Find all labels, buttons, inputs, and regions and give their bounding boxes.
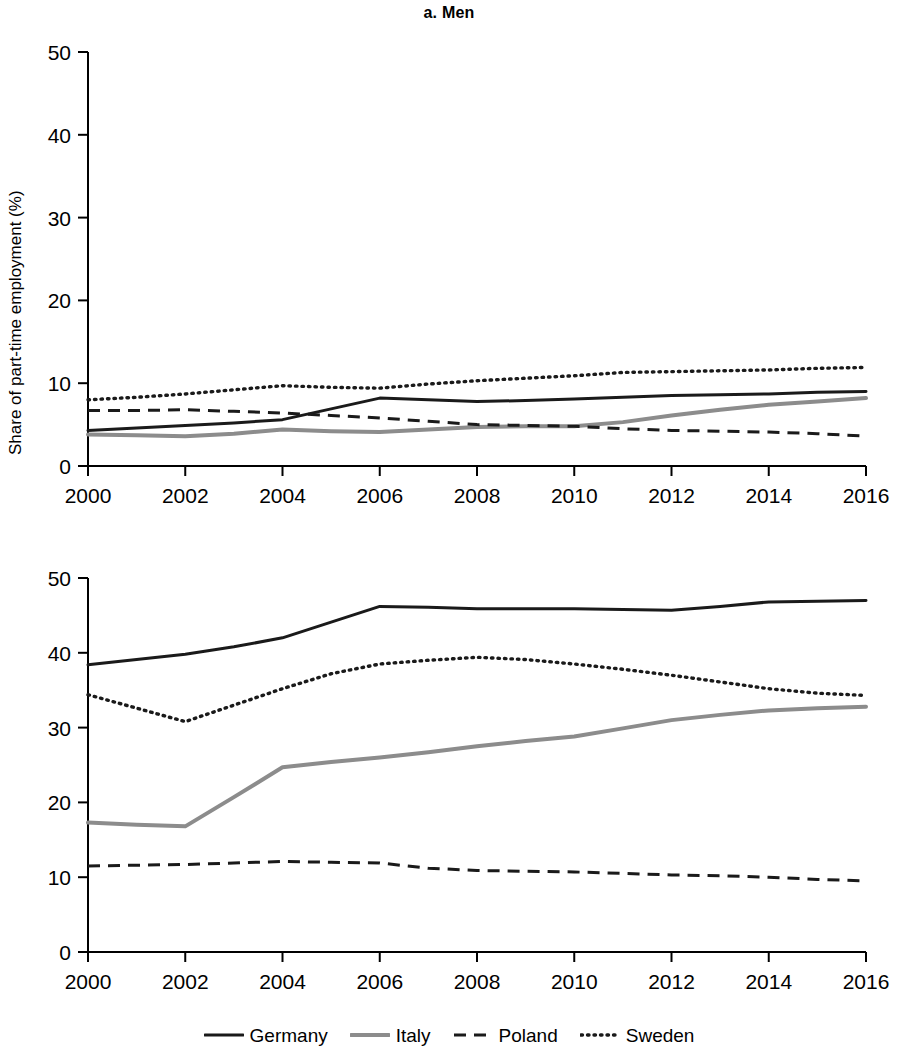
y-tick-label: 50 — [48, 567, 71, 590]
y-tick-label: 30 — [48, 207, 71, 230]
x-tick-label: 2016 — [843, 484, 890, 507]
y-axis-ticks: 01020304050 — [48, 567, 88, 964]
y-tick-label: 20 — [48, 289, 71, 312]
y-tick-label: 10 — [48, 372, 71, 395]
chart-panel-men: a. Men Share of part-time employment (%)… — [0, 0, 898, 525]
y-axis-ticks: 01020304050 — [48, 41, 88, 478]
solid-line-icon — [204, 1028, 244, 1042]
y-tick-label: 40 — [48, 642, 71, 665]
legend-item-germany: Germany — [204, 1026, 328, 1045]
series-line-italy — [88, 707, 866, 827]
chart-panel-women: b. Women Share of part-time employment (… — [0, 530, 898, 1015]
legend-label: Sweden — [626, 1026, 695, 1045]
x-tick-label: 2014 — [745, 970, 792, 993]
axes — [88, 52, 866, 466]
solid-line-icon — [350, 1028, 390, 1042]
x-axis-ticks: 200020022004200620082010201220142016 — [65, 952, 890, 993]
x-tick-label: 2016 — [843, 970, 890, 993]
y-tick-label: 30 — [48, 717, 71, 740]
legend-item-poland: Poland — [453, 1026, 558, 1045]
y-tick-label: 20 — [48, 791, 71, 814]
x-tick-label: 2000 — [65, 484, 112, 507]
x-tick-label: 2004 — [259, 970, 306, 993]
legend-item-italy: Italy — [350, 1026, 431, 1045]
x-tick-label: 2002 — [162, 484, 209, 507]
series-line-germany — [88, 600, 866, 664]
y-tick-label: 10 — [48, 866, 71, 889]
x-tick-label: 2002 — [162, 970, 209, 993]
x-tick-label: 2004 — [259, 484, 306, 507]
axes — [88, 578, 866, 952]
y-tick-label: 50 — [48, 41, 71, 64]
dashed-line-icon — [453, 1028, 493, 1042]
x-tick-label: 2010 — [551, 484, 598, 507]
x-tick-label: 2000 — [65, 970, 112, 993]
x-tick-label: 2006 — [356, 970, 403, 993]
y-tick-label: 0 — [59, 941, 71, 964]
x-tick-label: 2008 — [454, 970, 501, 993]
dotted-line-icon — [580, 1028, 620, 1042]
y-tick-label: 40 — [48, 124, 71, 147]
series-line-poland — [88, 861, 866, 880]
figure-part-time-employment: a. Men Share of part-time employment (%)… — [0, 0, 898, 1055]
legend-label: Germany — [250, 1026, 328, 1045]
plot-area-men: 0102030405020002002200420062008201020122… — [0, 0, 898, 525]
x-axis-ticks: 200020022004200620082010201220142016 — [65, 466, 890, 507]
chart-legend: GermanyItalyPolandSweden — [0, 1018, 898, 1052]
x-tick-label: 2006 — [356, 484, 403, 507]
legend-item-sweden: Sweden — [580, 1026, 695, 1045]
legend-label: Poland — [499, 1026, 558, 1045]
plot-area-women: 0102030405020002002200420062008201020122… — [0, 530, 898, 1015]
x-tick-label: 2012 — [648, 970, 695, 993]
x-tick-label: 2014 — [745, 484, 792, 507]
x-tick-label: 2010 — [551, 970, 598, 993]
y-tick-label: 0 — [59, 455, 71, 478]
x-tick-label: 2012 — [648, 484, 695, 507]
x-tick-label: 2008 — [454, 484, 501, 507]
legend-label: Italy — [396, 1026, 431, 1045]
